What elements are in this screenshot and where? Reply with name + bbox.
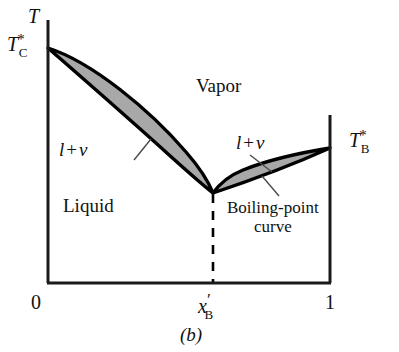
figure-caption: (b): [180, 325, 202, 344]
two-phase-left-operator: +: [64, 139, 79, 160]
two-phase-lens-left: [48, 48, 213, 193]
two-phase-label-right: l+v: [236, 133, 264, 152]
boiling-point-curve-line1: Boiling-point: [227, 198, 319, 217]
left-boiling-temperature-label: T*C: [7, 31, 34, 58]
region-label-liquid: Liquid: [63, 196, 114, 215]
two-phase-left-vapor: v: [79, 139, 87, 160]
boiling-point-curve-annotation: Boiling-point curve: [227, 198, 319, 236]
two-phase-right-operator: +: [241, 132, 256, 153]
leader-line-left-two-phase: [134, 139, 151, 160]
x-axis-tick-min: 0: [31, 292, 41, 312]
two-phase-label-left: l+v: [59, 140, 87, 159]
x-axis-tick-azeotrope: x′B: [198, 291, 219, 320]
leader-line-boiling-point-curve: [262, 176, 279, 196]
y-axis-label: T: [28, 6, 39, 26]
x-axis-tick-max: 1: [325, 292, 335, 312]
azeotrope-tick-subscript: B: [205, 307, 214, 322]
region-label-vapor: Vapor: [196, 76, 241, 95]
boiling-point-curve-line2: curve: [227, 217, 319, 236]
right-boiling-temperature-label: T*B: [349, 127, 376, 154]
right-temp-subscript: B: [361, 141, 370, 156]
two-phase-right-vapor: v: [256, 132, 264, 153]
left-temp-subscript: C: [19, 45, 28, 60]
